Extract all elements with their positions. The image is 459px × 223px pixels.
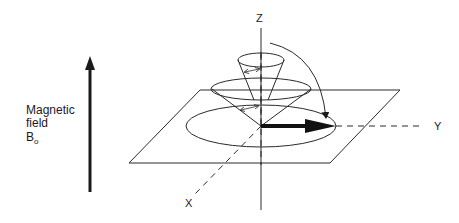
field-symbol-subscript: o <box>34 137 39 146</box>
field-symbol: Bo <box>26 130 39 146</box>
magnetic-field-arrow <box>85 56 95 192</box>
x-axis-label: X <box>185 197 193 209</box>
field-label-line2: field <box>26 116 48 130</box>
field-label-line1: Magnetic <box>26 103 75 117</box>
z-axis-label: Z <box>256 12 263 24</box>
cone-angle-arrow-small <box>245 69 259 72</box>
nmr-precession-diagram: Magnetic field Bo Z Y X <box>0 0 459 223</box>
cone-angle-arrow-large <box>241 106 258 110</box>
magnetization-vector-xy <box>261 119 336 133</box>
y-axis-label: Y <box>434 120 442 132</box>
field-symbol-main: B <box>26 130 34 144</box>
x-axis <box>195 126 261 194</box>
flip-arc-arrow <box>270 43 326 118</box>
